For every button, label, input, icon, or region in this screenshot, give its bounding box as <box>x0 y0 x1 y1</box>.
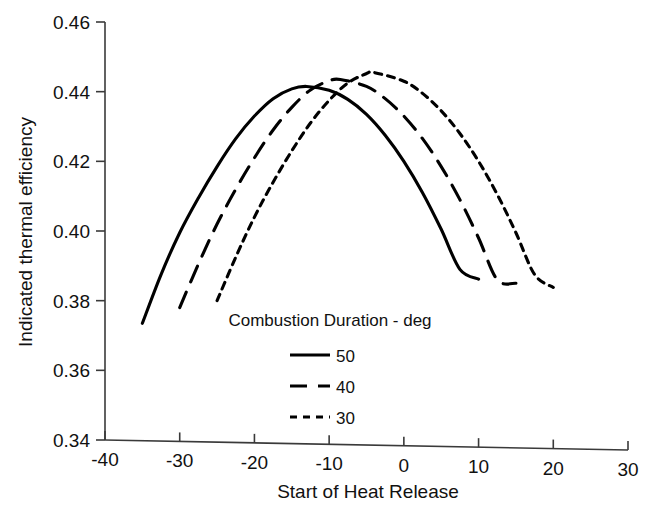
legend-entry-50: 50 <box>290 347 355 366</box>
legend-entry-40: 40 <box>290 378 355 397</box>
y-tick-label: 0.44 <box>53 82 90 103</box>
series-lines <box>142 72 553 323</box>
line-chart: 0.340.360.380.400.420.440.46 -40-30-20-1… <box>0 0 653 506</box>
x-tick-label: 30 <box>617 459 638 480</box>
x-tick-label: -40 <box>91 449 118 470</box>
y-tick-label: 0.40 <box>53 221 90 242</box>
y-tick-label: 0.38 <box>53 291 90 312</box>
x-tick-label: -10 <box>315 453 342 474</box>
legend-label-30: 30 <box>336 409 355 428</box>
x-axis-tick-labels: -40-30-20-100102030 <box>91 449 638 480</box>
y-tick-label: 0.36 <box>53 360 90 381</box>
y-axis-title: Indicated thermal efficiency <box>15 117 36 347</box>
y-tick-label: 0.34 <box>53 430 90 451</box>
x-axis-line <box>105 440 628 450</box>
legend-title: Combustion Duration - deg <box>228 311 431 330</box>
chart-legend: Combustion Duration - deg 504030 <box>228 311 431 428</box>
x-tick-label: 10 <box>468 456 489 477</box>
x-tick-label: 0 <box>399 455 410 476</box>
legend-entries: 504030 <box>290 347 355 428</box>
x-tick-label: -20 <box>241 452 268 473</box>
x-tick-label: 20 <box>543 458 564 479</box>
y-tick-label: 0.46 <box>53 12 90 33</box>
y-tick-label: 0.42 <box>53 151 90 172</box>
legend-label-50: 50 <box>336 347 355 366</box>
x-tick-label: -30 <box>166 450 193 471</box>
legend-entry-30: 30 <box>290 409 355 428</box>
x-axis-ticks <box>105 431 628 450</box>
legend-label-40: 40 <box>336 378 355 397</box>
series-line-30 <box>217 72 553 301</box>
y-axis-tick-labels: 0.340.360.380.400.420.440.46 <box>53 12 90 451</box>
y-axis-ticks <box>96 22 105 440</box>
chart-figure: 0.340.360.380.400.420.440.46 -40-30-20-1… <box>0 0 653 506</box>
x-axis-title: Start of Heat Release <box>277 481 459 502</box>
